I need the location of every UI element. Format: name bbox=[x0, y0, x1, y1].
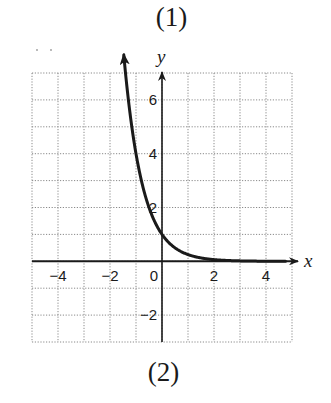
y-tick-label: 4 bbox=[149, 145, 157, 162]
exponential-graph: −4−2024−2246 x y bbox=[0, 0, 331, 403]
x-tick-label: −2 bbox=[101, 267, 118, 284]
x-tick-label: −4 bbox=[49, 267, 66, 284]
x-tick-label: 0 bbox=[150, 267, 158, 284]
y-tick-label: 6 bbox=[149, 91, 157, 108]
y-tick-label: −2 bbox=[140, 306, 157, 323]
y-axis-label: y bbox=[155, 46, 166, 67]
stray-marks bbox=[36, 49, 52, 51]
x-tick-label: 4 bbox=[262, 267, 270, 284]
x-axis-label: x bbox=[303, 250, 313, 271]
x-tick-label: 2 bbox=[210, 267, 218, 284]
